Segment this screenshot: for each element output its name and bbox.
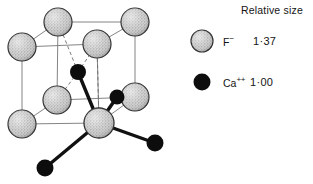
atom-fluorine (8, 110, 36, 138)
crystal-structure-figure: Relative size (0, 0, 313, 184)
atom-calcium (147, 135, 164, 152)
black-filled-sphere-icon (189, 69, 219, 95)
atom-fluorine-central (84, 108, 114, 138)
legend-value-calcium: 1·00 (250, 76, 273, 88)
atom-fluorine (121, 83, 149, 111)
atom-calcium (70, 64, 86, 80)
atom-fluorine (43, 86, 71, 114)
gray-stippled-sphere-icon (189, 28, 219, 54)
legend-row-calcium: Ca++ 1·00 (189, 69, 273, 95)
charge-superscript: ++ (236, 75, 245, 84)
legend-species-calcium: Ca++ (223, 75, 247, 89)
atom-fluorine (44, 8, 72, 36)
legend-row-fluoride: F− 1·37 (189, 28, 276, 54)
atom-calcium (37, 160, 54, 177)
legend-species-fluoride: F− (223, 34, 247, 48)
atom-fluorine (8, 33, 36, 61)
legend: Relative size (185, 4, 309, 100)
legend-value-fluoride: 1·37 (253, 35, 276, 47)
atom-calcium (110, 90, 125, 105)
charge-superscript: − (229, 34, 233, 43)
atom-fluorine (83, 30, 111, 58)
legend-title: Relative size (241, 4, 303, 16)
atom-fluorine (121, 8, 149, 36)
